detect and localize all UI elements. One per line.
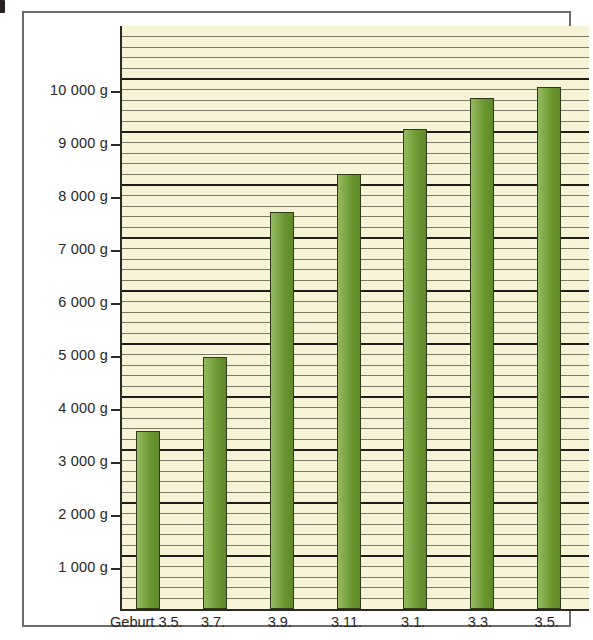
x-axis-tick-label: 3.5.	[487, 614, 593, 630]
bar	[270, 212, 294, 610]
bar	[136, 431, 160, 609]
y-axis-tick-mark	[111, 250, 120, 252]
bar	[203, 357, 227, 609]
gridline-minor	[122, 110, 589, 111]
gridline-minor	[122, 153, 589, 154]
bar	[537, 87, 561, 609]
y-axis-tick-mark	[111, 144, 120, 146]
gridline-minor	[122, 142, 589, 143]
figure-frame: 1 000 g2 000 g3 000 g4 000 g5 000 g6 000…	[22, 11, 571, 627]
bar	[403, 129, 427, 609]
y-axis-tick-label: 6 000 g	[58, 294, 108, 310]
y-axis-tick-label: 5 000 g	[58, 347, 108, 363]
y-axis-tick-label: 10 000 g	[50, 82, 108, 98]
y-axis-tick-mark	[111, 409, 120, 411]
bar	[470, 98, 494, 609]
gridline-minor	[122, 163, 589, 164]
y-axis-tick-label: 1 000 g	[58, 559, 108, 575]
y-axis-tick-label: 3 000 g	[58, 453, 108, 469]
y-axis-tick-label: 7 000 g	[58, 241, 108, 257]
y-axis-tick-label: 2 000 g	[58, 506, 108, 522]
y-axis-tick-mark	[111, 91, 120, 93]
y-axis-tick-mark	[111, 462, 120, 464]
gridline-minor	[122, 68, 589, 69]
y-axis-tick-label: 8 000 g	[58, 188, 108, 204]
plot-area	[120, 26, 589, 611]
y-axis-tick-mark	[111, 197, 120, 199]
y-axis-tick-mark	[111, 303, 120, 305]
gridline-minor	[122, 121, 589, 122]
gridline-minor	[122, 36, 589, 37]
x-axis: Geburt 3.5.3.7.3.9.3.11.3.1.3.3.3.5.	[46, 612, 591, 640]
gridline-minor	[122, 89, 589, 90]
gridline-major	[122, 78, 589, 80]
y-axis-tick-label: 4 000 g	[58, 400, 108, 416]
gridline-minor	[122, 57, 589, 58]
bar	[337, 174, 361, 609]
gridline-minor	[122, 47, 589, 48]
y-axis-tick-mark	[111, 356, 120, 358]
y-axis-tick-label: 9 000 g	[58, 135, 108, 151]
gridline-major	[122, 131, 589, 133]
y-axis-tick-mark	[111, 515, 120, 517]
y-axis-tick-mark	[111, 568, 120, 570]
gridline-minor	[122, 100, 589, 101]
corner-crop-mark	[0, 0, 5, 13]
y-axis: 1 000 g2 000 g3 000 g4 000 g5 000 g6 000…	[46, 26, 120, 611]
